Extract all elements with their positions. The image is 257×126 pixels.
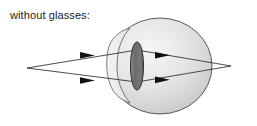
ray-diagram — [0, 0, 257, 126]
figure-without-glasses: without glasses: — [0, 0, 257, 126]
lens-shape — [131, 42, 144, 90]
lower-ray-arrow-incoming — [80, 77, 95, 84]
